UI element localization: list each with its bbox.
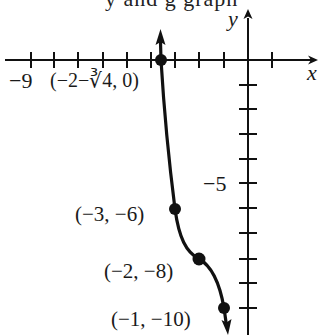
point-label-neg1-neg10: (−1, −10) xyxy=(111,309,191,330)
y-axis-label: y xyxy=(228,8,238,30)
y-tick-label-neg5: −5 xyxy=(203,173,226,195)
x-axis-label: x xyxy=(307,62,317,84)
point-label-x-intercept: (−2−∛4, 0) xyxy=(50,70,139,90)
point-neg1-neg10 xyxy=(218,302,230,314)
point-neg3-neg6 xyxy=(169,203,181,215)
y-axis xyxy=(239,9,257,335)
point-label-neg2-neg8: (−2, −8) xyxy=(104,261,173,282)
point-x-intercept xyxy=(155,54,167,66)
graph-canvas xyxy=(0,0,320,335)
point-neg2-neg8 xyxy=(193,253,206,266)
x-tick-label-neg9: −9 xyxy=(9,70,32,92)
y-axis-arrow-icon xyxy=(244,9,253,19)
point-label-neg3-neg6: (−3, −6) xyxy=(75,204,144,225)
